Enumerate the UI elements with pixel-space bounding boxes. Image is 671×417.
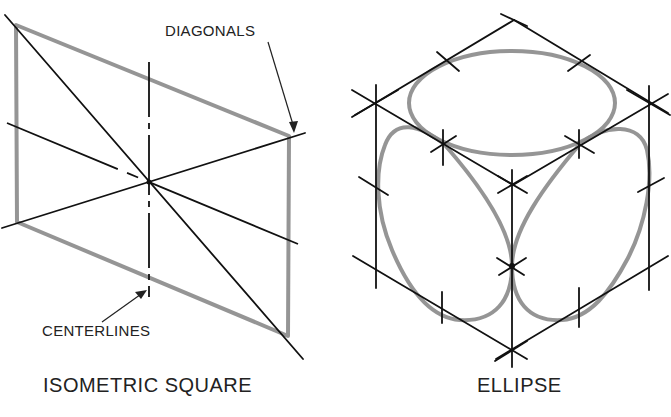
ellipse-caption: ELLIPSE	[477, 374, 562, 397]
isometric-cube-ellipse-figure	[352, 14, 670, 367]
isometric-square-caption: ISOMETRIC SQUARE	[43, 374, 252, 397]
diagonal-1	[5, 15, 303, 359]
centerlines-annotation: CENTERLINES	[42, 322, 150, 339]
horizontal-centerline	[7, 123, 298, 244]
isometric-drawing-figure: DIAGONALS CENTERLINES ISOMETRIC SQUARE E…	[0, 0, 671, 417]
drawing-canvas	[0, 0, 671, 417]
centerlines-leader-line	[102, 292, 144, 322]
diagonals-leader-line	[268, 42, 294, 128]
cube-edge-top-right	[514, 20, 668, 113]
isometric-square-figure	[2, 15, 305, 359]
cube-edge-mid-right	[513, 94, 668, 185]
left-face-ellipse	[378, 127, 512, 320]
diagonal-2	[2, 133, 305, 228]
diagonals-annotation: DIAGONALS	[165, 22, 255, 39]
center-point	[147, 180, 152, 185]
tangent-point	[509, 263, 515, 269]
right-face-ellipse	[512, 129, 649, 320]
arrowhead-icon	[289, 121, 298, 133]
